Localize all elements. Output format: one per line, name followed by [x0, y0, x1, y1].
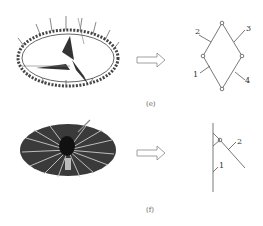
member-label-1: 1 — [219, 161, 224, 170]
member-label-1: 1 — [193, 70, 198, 79]
rhombus-linkage-diagram — [199, 21, 245, 91]
figure-canvas — [0, 0, 263, 226]
scissor-ring-image — [18, 16, 119, 86]
umbrella-image — [20, 120, 116, 177]
umbrella-linkage-diagram — [213, 123, 245, 192]
member-label-2: 2 — [237, 137, 242, 146]
caption-e: (e) — [146, 100, 156, 108]
right-arrow-icon — [137, 146, 165, 160]
right-arrow-icon — [137, 53, 165, 67]
caption-f: (f) — [146, 206, 154, 214]
member-label-4: 4 — [245, 76, 250, 85]
member-label-3: 3 — [246, 24, 251, 33]
member-label-2: 2 — [195, 27, 200, 36]
